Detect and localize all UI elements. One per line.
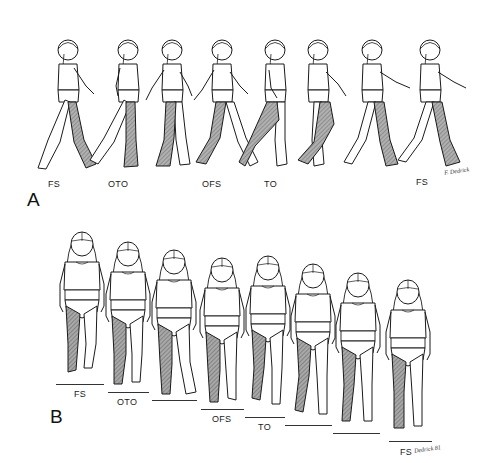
- front-figure-3: [152, 250, 196, 394]
- panel-b-label-fs-1: FS: [74, 389, 86, 399]
- panel-b-label-ofs: OFS: [212, 414, 231, 424]
- ground-line-6: [285, 425, 332, 426]
- ground-line-7: [333, 433, 380, 434]
- panel-b-label-oto: OTO: [117, 397, 137, 407]
- front-figure-6: [291, 264, 335, 414]
- panel-b-label-fs-2: FS: [400, 447, 412, 457]
- ground-line-2: [108, 392, 149, 393]
- ground-line-3: [152, 400, 197, 401]
- front-figure-2: [106, 242, 150, 384]
- ground-line-5: [245, 417, 285, 418]
- front-figure-1: [60, 232, 104, 372]
- panel-b-illustration: [0, 0, 485, 463]
- front-figure-5: [246, 256, 290, 404]
- panel-b-letter: B: [50, 406, 63, 428]
- ground-line-8: [389, 441, 432, 442]
- front-figure-7: [336, 273, 380, 421]
- ground-line-1: [56, 384, 104, 385]
- front-figure-4: [200, 258, 244, 402]
- front-figure-8: [386, 280, 430, 428]
- ground-line-4: [201, 409, 244, 410]
- panel-b-label-to: TO: [258, 422, 271, 432]
